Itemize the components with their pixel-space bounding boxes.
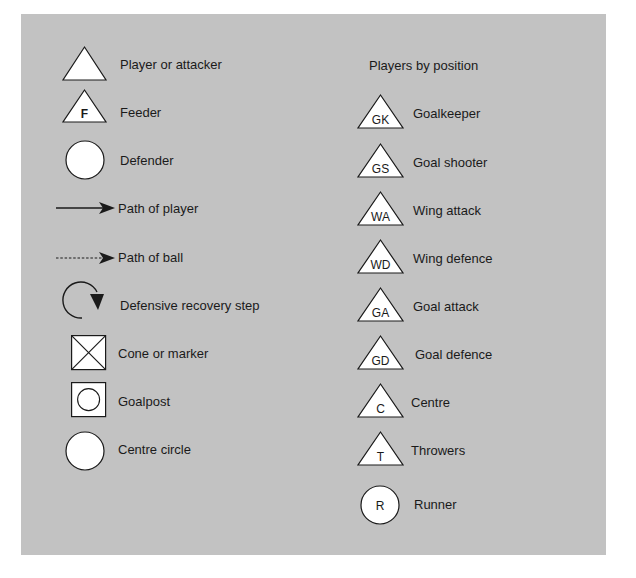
svg-text:WA: WA	[371, 210, 390, 224]
legend-label-centre-circle: Centre circle	[118, 442, 191, 458]
position-triangle-icon-gs: GS	[357, 143, 404, 178]
position-label: Centre	[411, 395, 450, 411]
svg-text:GA: GA	[372, 306, 389, 320]
position-triangle-icon-wa: WA	[357, 191, 404, 226]
position-label: Wing defence	[413, 251, 493, 267]
legend-label-recovery: Defensive recovery step	[120, 298, 259, 314]
svg-text:GK: GK	[372, 113, 389, 127]
position-triangle-icon-wd: WD	[357, 239, 404, 274]
runner-circle-icon: R	[360, 485, 400, 525]
position-label: Goal shooter	[413, 155, 487, 171]
position-triangle-icon-ga: GA	[357, 287, 404, 322]
goalpost-icon	[71, 382, 107, 418]
position-label: Runner	[414, 497, 457, 513]
position-label: Goalkeeper	[413, 106, 480, 122]
players-by-position-heading: Players by position	[369, 58, 478, 73]
centre-circle-icon	[65, 431, 105, 471]
defender-circle-icon	[65, 140, 105, 180]
legend-label-player: Player or attacker	[120, 57, 222, 73]
feeder-triangle-icon: F	[62, 89, 107, 124]
svg-text:R: R	[376, 499, 385, 513]
svg-text:T: T	[377, 450, 385, 464]
legend-label-path-player: Path of player	[118, 201, 198, 217]
legend-label-defender: Defender	[120, 153, 173, 169]
svg-text:GD: GD	[372, 354, 390, 368]
position-triangle-icon-gk: GK	[357, 94, 404, 129]
dashed-arrow-icon	[55, 250, 117, 266]
legend-label-cone: Cone or marker	[118, 346, 208, 362]
svg-text:WD: WD	[371, 258, 391, 272]
position-label: Wing attack	[413, 203, 481, 219]
svg-text:F: F	[81, 107, 88, 121]
position-triangle-icon-gd: GD	[357, 335, 404, 370]
position-triangle-icon-t: T	[357, 431, 404, 466]
cone-marker-icon	[71, 335, 107, 371]
position-triangle-icon-c: C	[357, 383, 404, 418]
legend-label-goalpost: Goalpost	[118, 394, 170, 410]
legend-label-path-ball: Path of ball	[118, 250, 183, 266]
position-label: Throwers	[411, 443, 465, 459]
position-label: Goal attack	[413, 299, 479, 315]
legend-label-feeder: Feeder	[120, 105, 161, 121]
svg-text:C: C	[376, 402, 385, 416]
position-label: Goal defence	[415, 347, 492, 363]
solid-arrow-icon	[55, 200, 117, 216]
triangle-icon	[62, 46, 107, 81]
curved-arrow-icon	[60, 278, 110, 320]
svg-text:GS: GS	[372, 162, 389, 176]
